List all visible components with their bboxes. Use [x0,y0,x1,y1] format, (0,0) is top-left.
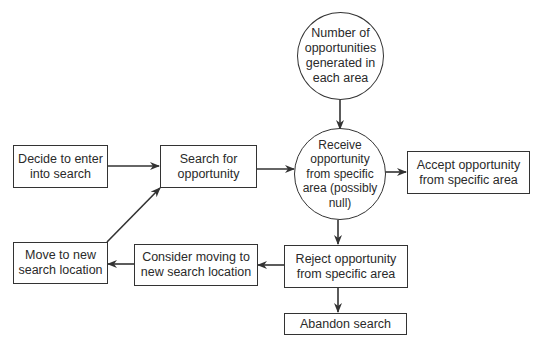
node-label: Receive opportunity from specific area (… [303,138,378,211]
node-receive-opportunity: Receive opportunity from specific area (… [294,128,386,220]
node-label: Move to new search location [18,248,102,278]
node-label: Search for opportunity [178,152,240,182]
node-opportunities-generated: Number of opportunities generated in eac… [297,12,384,100]
node-label: Number of opportunities generated in eac… [305,26,377,86]
node-search-for-opportunity: Search for opportunity [160,145,257,188]
node-label: Accept opportunity from specific area [417,158,521,188]
node-decide-to-enter-search: Decide to enter into search [13,145,108,188]
node-label: Decide to enter into search [18,152,103,182]
node-consider-moving: Consider moving to new search location [134,244,258,286]
node-label: Abandon search [300,317,391,332]
node-accept-opportunity: Accept opportunity from specific area [407,151,530,194]
node-label: Consider moving to new search location [141,250,251,280]
node-move-to-new-location: Move to new search location [13,242,108,284]
node-label: Reject opportunity from specific area [296,252,397,282]
node-reject-opportunity: Reject opportunity from specific area [284,245,408,288]
edge-move-to-search [107,188,160,242]
node-abandon-search: Abandon search [284,313,407,335]
